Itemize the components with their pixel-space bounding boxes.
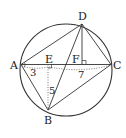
label-a: A [9,59,19,72]
segment-db [48,24,82,110]
geometry-diagram: A B C D E F 3 5 7 [0,0,126,138]
measure-label-eb: 5 [49,85,55,96]
segment-dc [82,24,111,65]
label-b: B [44,114,52,127]
measure-label-ae: 3 [30,67,36,78]
label-f: F [72,53,80,66]
label-d: D [78,10,87,23]
label-c: C [113,59,121,72]
label-e: E [45,53,53,66]
right-angle-marker-f [82,61,86,65]
measure-label-ec: 7 [78,69,84,80]
